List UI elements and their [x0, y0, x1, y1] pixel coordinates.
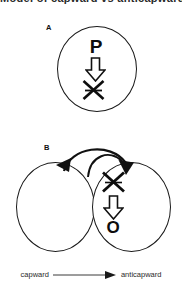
figure-root: Model of capward vs anticapward A P B: [0, 0, 182, 293]
legend-right-label: anticapward: [121, 271, 161, 279]
transfer-arrows-group: [54, 141, 140, 187]
crossed-out-x-icon: [81, 79, 106, 101]
crossed-out-x-icon-b: [100, 170, 127, 194]
glyph-product-o: O: [101, 219, 125, 236]
rightwards-arrow-icon: [53, 266, 117, 284]
down-block-arrow-icon-b: [103, 195, 124, 220]
glyph-substrate-p: P: [84, 37, 108, 56]
legend: capward anticapward: [0, 265, 182, 285]
panel-label-b: B: [44, 144, 49, 152]
panel-label-a: A: [46, 24, 51, 32]
figure-title: Model of capward vs anticapward: [0, 0, 182, 4]
legend-left-label: capward: [21, 271, 49, 279]
figure-title-strip: Model of capward vs anticapward: [0, 0, 182, 7]
